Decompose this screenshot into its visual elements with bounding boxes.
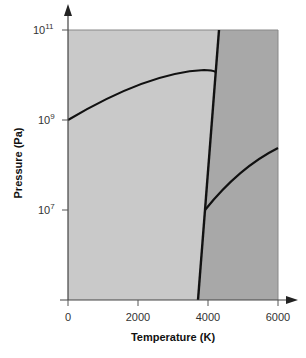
phase-diagram-chart: 1011 109 107 0 2000 4000 6000 Temperatur… [0,0,306,358]
y-tick-label-1e9: 109 [38,112,55,126]
x-axis-label: Temperature (K) [131,331,215,343]
x-tick-label-2000: 2000 [126,311,150,323]
x-axis-arrow-icon [286,296,298,304]
y-tick-label-1e7: 107 [38,202,55,216]
x-tick-label-4000: 4000 [196,311,220,323]
y-axis-label: Pressure (Pa) [12,127,24,198]
y-axis-arrow-icon [64,4,72,16]
x-tick-label-6000: 6000 [266,311,290,323]
x-tick-label-0: 0 [65,311,71,323]
y-tick-label-1e11: 1011 [33,22,54,36]
